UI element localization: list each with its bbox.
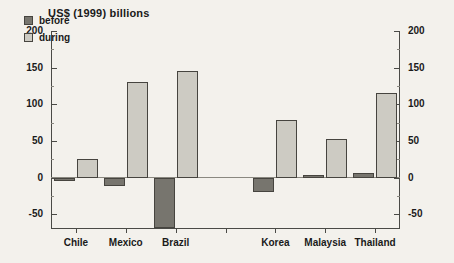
y-tick-minor xyxy=(51,196,54,197)
y-tick-minor xyxy=(397,159,400,160)
x-tick xyxy=(375,228,376,233)
y-axis-label-right: 0 xyxy=(408,173,438,183)
x-tick xyxy=(325,228,326,233)
x-axis-label: Chile xyxy=(64,237,88,248)
bar-during xyxy=(376,93,397,178)
y-tick-minor xyxy=(51,159,54,160)
bar-during xyxy=(326,139,347,178)
bar-chart: US$ (1999) billions 200150100500-50 2001… xyxy=(0,0,454,263)
y-axis-label-right: 100 xyxy=(408,99,438,109)
y-axis-label-left: 150 xyxy=(13,63,43,73)
bar-before xyxy=(154,178,175,229)
y-axis-label-left: -50 xyxy=(13,209,43,219)
x-tick xyxy=(76,228,77,233)
legend-swatch-during-icon xyxy=(24,33,33,42)
y-axis-label-left: 50 xyxy=(13,136,43,146)
bar-during xyxy=(127,82,148,178)
x-tick xyxy=(126,228,127,233)
y-axis-label-right: 50 xyxy=(408,136,438,146)
y-tick-major xyxy=(51,68,57,69)
y-tick-major xyxy=(394,68,400,69)
x-tick xyxy=(176,228,177,233)
x-axis-label: Malaysia xyxy=(304,237,346,248)
legend-label-before: before xyxy=(39,15,70,26)
bar-during xyxy=(177,71,198,177)
y-tick-major xyxy=(51,214,57,215)
x-axis-label: Thailand xyxy=(355,237,396,248)
legend-label-during: during xyxy=(39,32,70,43)
y-tick-minor xyxy=(397,86,400,87)
y-axis-label-right: 150 xyxy=(408,63,438,73)
y-tick-minor xyxy=(397,49,400,50)
y-tick-minor xyxy=(397,123,400,124)
y-tick-minor xyxy=(51,86,54,87)
y-axis-label-left: 0 xyxy=(13,173,43,183)
x-axis-label: Korea xyxy=(261,237,289,248)
y-tick-major xyxy=(394,214,400,215)
plot-area xyxy=(51,31,400,229)
x-axis-label: Brazil xyxy=(162,237,189,248)
y-axis-label-right: -50 xyxy=(408,209,438,219)
bar-before xyxy=(54,178,75,182)
chart-legend: before during xyxy=(24,12,70,46)
bar-before xyxy=(353,173,374,177)
y-tick-minor xyxy=(397,196,400,197)
y-tick-major xyxy=(394,31,400,32)
legend-item-before: before xyxy=(24,12,70,29)
y-tick-minor xyxy=(51,123,54,124)
bar-before xyxy=(253,178,274,192)
x-tick xyxy=(226,228,227,233)
x-axis-label: Mexico xyxy=(109,237,143,248)
x-tick xyxy=(275,228,276,233)
bar-before xyxy=(104,178,125,186)
legend-swatch-before-icon xyxy=(24,16,33,25)
bar-before xyxy=(303,175,324,177)
y-axis-right xyxy=(399,31,400,229)
y-axis-label-right: 200 xyxy=(408,26,438,36)
bar-during xyxy=(276,120,297,178)
y-tick-major xyxy=(394,178,400,179)
legend-item-during: during xyxy=(24,29,70,46)
y-axis-label-left: 100 xyxy=(13,99,43,109)
y-tick-minor xyxy=(51,49,54,50)
y-tick-major xyxy=(51,141,57,142)
bar-during xyxy=(77,159,98,178)
y-tick-major xyxy=(51,104,57,105)
y-axis-left xyxy=(51,31,52,229)
